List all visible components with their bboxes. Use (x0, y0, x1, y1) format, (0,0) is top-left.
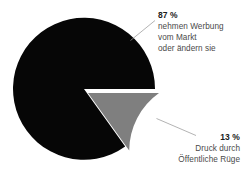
annotation-major-percent: 87 % (158, 10, 224, 21)
annotation-minor-percent: 13 % (178, 132, 240, 143)
pie-chart: 87 % nehmen Werbung vom Markt oder änder… (0, 0, 244, 182)
pie-slice-major (13, 18, 155, 160)
annotation-minor-slice: 13 % Druck durch Öffentliche Rüge (178, 132, 240, 166)
annotation-major-line-1: nehmen Werbung (158, 22, 224, 33)
annotation-major-line-2: vom Markt (158, 33, 224, 44)
leader-line-major (131, 21, 156, 41)
annotation-major-text: nehmen Werbung vom Markt oder ändern sie (158, 22, 224, 54)
annotation-minor-line-1: Druck durch (178, 144, 240, 155)
annotation-major-slice: 87 % nehmen Werbung vom Markt oder änder… (158, 10, 224, 55)
annotation-minor-line-2: Öffentliche Rüge (178, 155, 240, 166)
annotation-minor-text: Druck durch Öffentliche Rüge (178, 144, 240, 166)
annotation-major-line-3: oder ändern sie (158, 44, 224, 55)
